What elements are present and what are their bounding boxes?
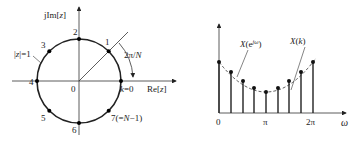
point-label-0: k=0 <box>120 84 134 94</box>
spectrum-panel: X(ejω) X(k) 0 π 2π ω <box>216 24 348 128</box>
tick-2pi: 2π <box>306 117 316 127</box>
z-point-1 <box>107 49 111 53</box>
angle-arc <box>119 43 133 77</box>
stems <box>219 62 313 113</box>
z-point-0 <box>119 79 123 83</box>
point-label-5: 5 <box>41 113 46 123</box>
dft-sampling-diagram: jIm[z] Re[z] 0 |z|=1 2π/N k=0 1 2 3 4 5 … <box>0 0 360 143</box>
dtft-label-leader <box>237 50 248 77</box>
dft-label: X(k) <box>289 36 306 46</box>
circle-label: |z|=1 <box>14 49 31 59</box>
origin-label: 0 <box>71 84 76 94</box>
point-label-1: 1 <box>105 37 110 47</box>
tick-pi: π <box>263 117 268 127</box>
point-label-4: 4 <box>29 77 34 87</box>
z-point-5 <box>47 109 51 113</box>
point-label-2: 2 <box>73 27 78 37</box>
z-point-4 <box>35 79 39 83</box>
z-point-2 <box>77 37 81 41</box>
z-point-6 <box>77 121 81 125</box>
dft-label-leader <box>291 47 305 90</box>
z-plane-panel: jIm[z] Re[z] 0 |z|=1 2π/N k=0 1 2 3 4 5 … <box>12 7 176 135</box>
z-point-3 <box>47 49 51 53</box>
imag-axis-label: jIm[z] <box>43 10 66 20</box>
point-label-3: 3 <box>41 40 46 50</box>
point-label-7: 7(=N−1) <box>111 113 142 123</box>
real-axis-label: Re[z] <box>147 84 167 94</box>
x-axis-label: ω <box>341 117 348 128</box>
angle-label: 2π/N <box>124 50 143 60</box>
tick-0: 0 <box>216 117 221 127</box>
point-label-6: 6 <box>72 125 77 135</box>
circle-label-leader <box>33 56 41 63</box>
dtft-label: X(ejω) <box>239 39 261 49</box>
